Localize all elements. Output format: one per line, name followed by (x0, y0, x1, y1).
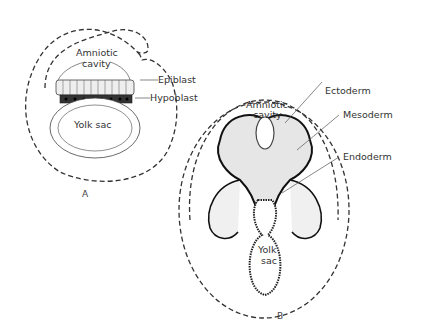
label-mesoderm: Mesoderm (343, 109, 393, 120)
label-ectoderm: Ectoderm (325, 85, 371, 96)
amniotic-cavity-b (256, 117, 274, 149)
label-yolk-sac-a: Yolk sac (73, 119, 112, 130)
panel-b: Amniotic cavity Ectoderm Mesoderm Endode… (179, 82, 393, 321)
arrow-right-icon (110, 62, 130, 80)
panel-letter-a: A (82, 189, 89, 199)
epiblast-cells (56, 80, 134, 95)
panel-letter-b: B (277, 311, 283, 321)
label-endoderm: Endoderm (343, 151, 392, 162)
label-amniotic-cavity-a: Amniotic (76, 47, 118, 58)
embryo-diagram: Amniotic cavity Epiblast Hypoblast Yolk … (0, 0, 428, 332)
label-yolk-sac-b: Yolk (257, 244, 277, 255)
svg-text:sac: sac (261, 255, 277, 266)
label-epiblast: Epiblast (158, 74, 196, 85)
svg-text:cavity: cavity (82, 58, 111, 69)
left-lateral-fold (209, 180, 240, 238)
right-lateral-fold (290, 180, 321, 238)
arrow-left-icon (58, 62, 85, 80)
panel-a: Amniotic cavity Epiblast Hypoblast Yolk … (26, 29, 198, 199)
svg-text:cavity: cavity (253, 109, 282, 120)
label-hypoblast: Hypoblast (150, 92, 198, 103)
